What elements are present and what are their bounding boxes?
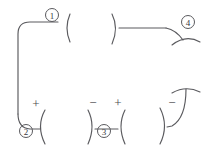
polarity-minus-mid: − [89, 95, 96, 110]
path-top-right-lower-arc [172, 39, 200, 45]
polarity-plus-left: + [32, 96, 39, 111]
polarity-minus-right: − [168, 95, 175, 110]
path-bottom-right-arc [160, 108, 165, 144]
diagram-canvas: +−+− 1234 [0, 0, 211, 147]
path-top-left-arc [67, 14, 70, 42]
callout-2-number: 2 [24, 127, 29, 137]
callout-labels-group: 1234 [20, 9, 195, 138]
stroke-paths-group [18, 14, 200, 144]
path-bottom-mid-right-arc [121, 110, 125, 144]
callout-1-number: 1 [50, 11, 55, 21]
callout-3-number: 3 [102, 127, 107, 137]
callout-2: 2 [20, 125, 33, 138]
callout-4-number: 4 [186, 18, 191, 28]
polarity-marks-group: +−+− [32, 95, 175, 111]
path-top-right-arc [112, 14, 116, 44]
callout-4: 4 [182, 16, 195, 29]
diagram-svg: +−+− 1234 [0, 0, 211, 147]
callout-3: 3 [98, 125, 111, 138]
path-bottom-mid-left-arc [88, 110, 92, 144]
polarity-plus-mid: + [114, 95, 121, 110]
path-top-right-descend [166, 28, 183, 40]
callout-1: 1 [46, 9, 59, 22]
path-bottom-left-arc [41, 110, 46, 144]
